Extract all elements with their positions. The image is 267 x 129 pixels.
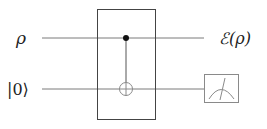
- measurement-meter-icon: [205, 75, 239, 103]
- control-dot-icon: [123, 35, 129, 41]
- target-xor-icon: [120, 83, 133, 96]
- quantum-circuit: ρ |0⟩ ℰ(ρ): [0, 0, 267, 129]
- input-label-rho: ρ: [15, 28, 26, 48]
- output-label-channel: ℰ(ρ): [219, 29, 251, 48]
- input-label-ket0: |0⟩: [7, 80, 29, 99]
